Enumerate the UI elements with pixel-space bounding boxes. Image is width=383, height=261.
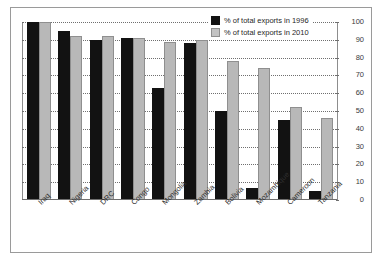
y-tick-mark (336, 93, 339, 94)
bar (39, 22, 51, 200)
y-tick-label: 100 (340, 18, 364, 26)
bar-group (212, 22, 242, 200)
bar-group (55, 22, 85, 200)
y-tick-mark (336, 164, 339, 165)
bar (164, 42, 176, 200)
y-tick-label: 20 (340, 160, 364, 168)
y-tick-mark (336, 147, 339, 148)
bar (27, 22, 39, 200)
y-tick-label: 90 (340, 36, 364, 44)
y-tick-label: 80 (340, 54, 364, 62)
bar-group (24, 22, 54, 200)
y-tick-mark (336, 129, 339, 130)
bar-group (275, 22, 305, 200)
y-tick-label: 40 (340, 125, 364, 133)
plot-area (22, 22, 338, 200)
bar (70, 36, 82, 200)
y-tick-label: 30 (340, 143, 364, 151)
bar (58, 31, 70, 200)
chart-legend: % of total exports in 1996% of total exp… (208, 14, 312, 39)
bar (278, 120, 290, 200)
bar (258, 68, 270, 200)
legend-label: % of total exports in 1996 (224, 16, 309, 25)
y-tick-label: 50 (340, 107, 364, 115)
y-axis-tick-labels: 0102030405060708090100 (340, 22, 364, 200)
legend-swatch-1996 (211, 16, 220, 25)
bar (227, 61, 239, 200)
bar-group (149, 22, 179, 200)
y-tick-label: 0 (340, 196, 364, 204)
legend-item: % of total exports in 1996 (211, 16, 309, 25)
bar (133, 38, 145, 200)
bar (196, 40, 208, 200)
y-tick-mark (336, 111, 339, 112)
legend-item: % of total exports in 2010 (211, 28, 309, 37)
bar (215, 111, 227, 200)
bar-group (243, 22, 273, 200)
legend-label: % of total exports in 2010 (224, 28, 309, 37)
clipped-text-remnant (0, 0, 383, 7)
y-tick-mark (336, 75, 339, 76)
bar (102, 36, 114, 200)
bar (121, 38, 133, 200)
bar-group (181, 22, 211, 200)
y-tick-label: 70 (340, 71, 364, 79)
chart-figure: 0102030405060708090100 IraqNigeriaDRCCon… (10, 7, 372, 253)
y-tick-label: 60 (340, 89, 364, 97)
bar (90, 40, 102, 200)
bar-groups (22, 22, 338, 200)
y-tick-mark (336, 40, 339, 41)
y-tick-mark (336, 58, 339, 59)
bar (184, 43, 196, 200)
legend-swatch-2010 (211, 28, 220, 37)
bar-group (118, 22, 148, 200)
bar-group (87, 22, 117, 200)
bar-group (306, 22, 336, 200)
bar (152, 88, 164, 200)
y-tick-mark (336, 22, 339, 23)
x-axis-tick-labels: IraqNigeriaDRCCongoMongoliaZambiaBolivia… (22, 201, 338, 251)
